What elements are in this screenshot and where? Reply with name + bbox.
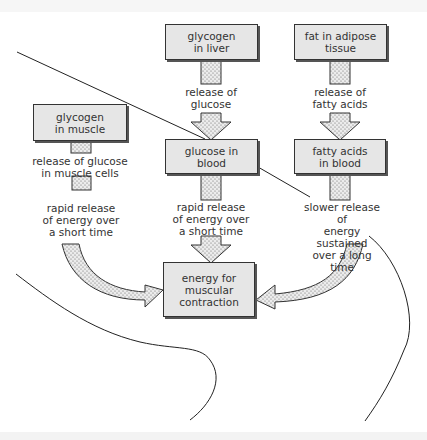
arrow-muscle-to-energy xyxy=(62,244,163,307)
box-energy: energy for muscular contraction xyxy=(163,262,255,317)
label-release-glucose-muscle: release of glucose in muscle cells xyxy=(32,155,127,179)
stem-glucose-blood xyxy=(201,174,221,200)
box-glycogen-muscle: glycogen in muscle xyxy=(33,104,127,141)
stem-fatty-acids xyxy=(330,174,350,200)
stem-fat xyxy=(330,60,350,84)
box-energy-text: energy for muscular contraction xyxy=(179,272,239,308)
label-release-glucose: release of glucose xyxy=(185,86,237,110)
box-glucose-blood-text: glucose in blood xyxy=(185,145,238,169)
stem-muscle xyxy=(71,141,91,153)
box-glycogen-liver-text: glycogen in liver xyxy=(188,30,236,54)
arrow-blood-to-energy xyxy=(191,236,231,263)
label-release-fatty-acids: release of fatty acids xyxy=(312,86,367,110)
box-glycogen-muscle-text: glycogen in muscle xyxy=(55,111,105,135)
label-slower-fat: slower release of energy sustained over … xyxy=(300,201,385,273)
box-fat-adipose: fat in adipose tissue xyxy=(294,24,387,60)
box-fatty-acids-blood-text: fatty acids in blood xyxy=(312,145,367,169)
label-rapid-muscle: rapid release of energy over a short tim… xyxy=(43,202,120,238)
label-rapid-blood: rapid release of energy over a short tim… xyxy=(173,201,250,237)
box-fatty-acids-blood: fatty acids in blood xyxy=(294,139,386,174)
arrow-liver-to-blood xyxy=(191,113,231,140)
arrow-fat-to-blood xyxy=(320,113,360,140)
box-fat-adipose-text: fat in adipose tissue xyxy=(305,30,377,54)
box-glycogen-liver: glycogen in liver xyxy=(165,24,258,60)
stem-liver xyxy=(201,60,221,84)
box-glucose-blood: glucose in blood xyxy=(165,139,258,174)
